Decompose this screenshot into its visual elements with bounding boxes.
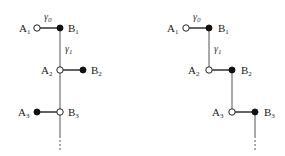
right-label-b2: B2 [241,64,252,78]
right-label-b3: B3 [264,106,275,120]
left-label-gamma1: γ1 [65,43,72,56]
left-diagram: A1 B1 A2 B2 A3 B3 γ0 γ1 [18,11,102,150]
right-label-gamma1: γ1 [214,43,221,56]
left-label-a3: A3 [18,106,30,120]
left-node-b3 [57,109,63,115]
right-label-a3: A3 [212,106,224,120]
left-label-b2: B2 [91,64,102,78]
right-label-a1: A1 [167,22,179,36]
right-label-gamma0: γ0 [193,11,201,24]
left-node-a2 [57,67,63,73]
right-node-b1 [206,25,212,31]
left-label-a2: A2 [41,64,53,78]
left-node-a3 [34,109,40,115]
left-label-gamma0: γ0 [44,11,52,24]
right-diagram: A1 B1 A2 B2 A3 B3 γ0 γ1 [167,11,275,150]
left-label-a1: A1 [19,22,31,36]
right-label-b1: B1 [218,22,229,36]
right-node-a3 [229,109,235,115]
left-label-b3: B3 [68,106,79,120]
right-node-a2 [206,67,212,73]
left-node-a1 [34,25,40,31]
right-label-a2: A2 [188,64,200,78]
diagram-canvas: A1 B1 A2 B2 A3 B3 γ0 γ1 A1 B1 A2 B2 A3 B… [0,0,285,156]
left-node-b1 [57,25,63,31]
left-label-b1: B1 [68,22,79,36]
right-node-b3 [252,109,258,115]
right-node-a1 [183,25,189,31]
left-node-b2 [80,67,86,73]
right-node-b2 [229,67,235,73]
